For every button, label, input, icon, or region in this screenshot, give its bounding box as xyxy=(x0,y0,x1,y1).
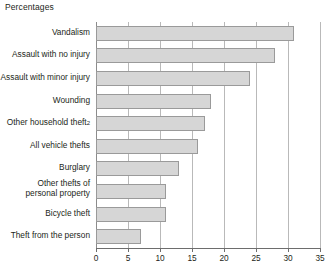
x-axis-ticks: 05101520253035 xyxy=(96,248,320,264)
tick-mark xyxy=(224,248,225,252)
bar xyxy=(96,139,198,154)
bar-row: Other thefts ofpersonal property xyxy=(96,180,320,203)
tick-mark xyxy=(192,248,193,252)
bar xyxy=(96,161,179,176)
category-label: Burglary xyxy=(59,158,90,179)
chart-axis-title: Percentages xyxy=(5,2,54,12)
tick-label: 10 xyxy=(155,253,164,263)
category-label: All vehicle thefts xyxy=(30,135,90,156)
bar xyxy=(96,94,211,109)
category-label: Other household theft2 xyxy=(7,112,90,133)
tick-label: 30 xyxy=(283,253,292,263)
tick-label: 5 xyxy=(126,253,131,263)
bar-row: All vehicle thefts xyxy=(96,135,320,158)
category-label: Assault with minor injury xyxy=(1,67,90,88)
tick-label: 35 xyxy=(315,253,324,263)
category-label: Other thefts ofpersonal property xyxy=(25,179,90,200)
bar-row: Assault with no injury xyxy=(96,45,320,68)
gridline xyxy=(320,22,321,248)
bar xyxy=(96,48,275,63)
tick-label: 25 xyxy=(251,253,260,263)
tick-mark xyxy=(160,248,161,252)
tick-mark xyxy=(320,248,321,252)
plot-area: VandalismAssault with no injuryAssault w… xyxy=(96,22,320,248)
tick-label: 15 xyxy=(187,253,196,263)
bar xyxy=(96,184,166,199)
tick-mark xyxy=(96,248,97,252)
bar-rows: VandalismAssault with no injuryAssault w… xyxy=(96,22,320,248)
bar-row: Theft from the person xyxy=(96,225,320,248)
bar xyxy=(96,207,166,222)
tick-label: 0 xyxy=(94,253,99,263)
tick-label: 20 xyxy=(219,253,228,263)
tick-mark xyxy=(128,248,129,252)
bar-row: Vandalism xyxy=(96,22,320,45)
tick-mark xyxy=(288,248,289,252)
tick-mark xyxy=(256,248,257,252)
bar xyxy=(96,26,294,41)
category-label: Theft from the person xyxy=(11,225,90,246)
bar xyxy=(96,71,250,86)
bar-row: Wounding xyxy=(96,90,320,113)
bar-row: Other household theft2 xyxy=(96,112,320,135)
category-label: Vandalism xyxy=(52,22,90,43)
bar-row: Burglary xyxy=(96,158,320,181)
bar xyxy=(96,229,141,244)
category-label: Bicycle theft xyxy=(45,203,90,224)
category-label: Assault with no injury xyxy=(12,45,90,66)
bar-row: Assault with minor injury xyxy=(96,67,320,90)
bar-row: Bicycle theft xyxy=(96,203,320,226)
category-label: Wounding xyxy=(53,90,90,111)
bar xyxy=(96,116,205,131)
